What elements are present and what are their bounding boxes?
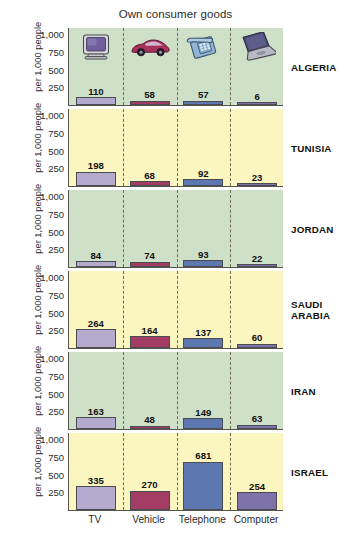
- category-divider: [123, 433, 124, 510]
- y-tick-label: 500: [48, 309, 64, 319]
- y-axis-label: per 1,000 people: [34, 182, 44, 256]
- y-tick-label: 500: [48, 147, 64, 157]
- x-axis-labels: TVVehicleTelephoneComputer: [68, 514, 283, 530]
- bar: 163: [76, 417, 116, 429]
- bar: 93: [183, 260, 223, 267]
- category-divider: [230, 190, 231, 267]
- plot-area: 198689223: [68, 109, 283, 187]
- bar: 48: [130, 426, 170, 429]
- y-tick-label: 750: [48, 48, 64, 58]
- country-label: ALGERIA: [291, 28, 353, 106]
- y-tick-label: 750: [48, 291, 64, 301]
- bar: 264: [76, 329, 116, 348]
- bar: 22: [237, 264, 277, 267]
- bar: 57: [183, 101, 223, 105]
- x-axis-label: TV: [68, 514, 122, 526]
- panel-stack: 1,000750500250per 1,000 people11058576AL…: [0, 28, 353, 514]
- y-axis-label: per 1,000 people: [34, 20, 44, 94]
- bar-value-label: 254: [249, 482, 265, 492]
- y-axis: 1,000750500250per 1,000 people: [26, 190, 66, 268]
- plot-area: 1634814963: [68, 352, 283, 430]
- y-tick-label: 500: [48, 471, 64, 481]
- consumer-goods-chart: Own consumer goods 1,000750500250per 1,0…: [0, 0, 353, 554]
- bar-value-label: 149: [195, 408, 211, 418]
- y-axis: 1,000750500250per 1,000 people: [26, 271, 66, 349]
- bar-value-label: 137: [195, 328, 211, 338]
- bar: 335: [76, 486, 116, 510]
- y-tick-label: 1,000: [40, 273, 64, 283]
- bar: 164: [130, 336, 170, 348]
- x-axis-label: Vehicle: [122, 514, 176, 526]
- x-axis-label: Computer: [229, 514, 283, 526]
- country-panel: 1,000750500250per 1,000 people11058576AL…: [0, 28, 353, 109]
- y-tick-label: 750: [48, 129, 64, 139]
- y-axis: 1,000750500250per 1,000 people: [26, 433, 66, 511]
- bar-value-label: 198: [88, 161, 104, 171]
- category-divider: [177, 190, 178, 267]
- tv-icon: [69, 30, 123, 64]
- y-axis-label: per 1,000 people: [34, 263, 44, 337]
- category-divider: [177, 109, 178, 186]
- plot-area: 84749322: [68, 190, 283, 268]
- bar: 198: [76, 172, 116, 186]
- bar: 84: [76, 261, 116, 267]
- bar-value-label: 6: [254, 92, 259, 102]
- category-divider: [123, 271, 124, 348]
- country-panel: 1,000750500250per 1,000 people2641641376…: [0, 271, 353, 352]
- country-label: SAUDI ARABIA: [291, 271, 353, 349]
- bar: 110: [76, 97, 116, 105]
- chart-title: Own consumer goods: [68, 8, 283, 20]
- category-divider: [230, 109, 231, 186]
- y-tick-label: 250: [48, 164, 64, 174]
- bar-value-label: 163: [88, 407, 104, 417]
- country-panel: 1,000750500250per 1,000 people1634814963…: [0, 352, 353, 433]
- y-axis: 1,000750500250per 1,000 people: [26, 109, 66, 187]
- category-divider: [230, 352, 231, 429]
- category-divider: [177, 28, 178, 105]
- plot-area: 335270681254: [68, 433, 283, 511]
- category-divider: [230, 271, 231, 348]
- plot-area: 11058576: [68, 28, 283, 106]
- y-tick-label: 1,000: [40, 30, 64, 40]
- category-divider: [177, 271, 178, 348]
- bar-value-label: 63: [252, 414, 263, 424]
- bar-value-label: 74: [144, 251, 155, 261]
- y-tick-label: 250: [48, 245, 64, 255]
- bar-value-label: 270: [142, 480, 158, 490]
- bar-value-label: 110: [88, 87, 103, 97]
- category-divider: [230, 433, 231, 510]
- bar-value-label: 23: [252, 173, 263, 183]
- category-divider: [177, 352, 178, 429]
- y-axis-label: per 1,000 people: [34, 425, 44, 499]
- bar-value-label: 68: [144, 171, 155, 181]
- bar-value-label: 60: [252, 333, 263, 343]
- bar: 681: [183, 462, 223, 510]
- country-panel: 1,000750500250per 1,000 people84749322JO…: [0, 190, 353, 271]
- bar: 68: [130, 181, 170, 186]
- category-divider: [123, 109, 124, 186]
- bar: 58: [130, 101, 170, 105]
- country-label: ISRAEL: [291, 433, 353, 511]
- plot-area: 26416413760: [68, 271, 283, 349]
- y-tick-label: 750: [48, 372, 64, 382]
- bar-value-label: 264: [88, 319, 104, 329]
- category-divider: [177, 433, 178, 510]
- bar-value-label: 58: [144, 90, 155, 100]
- y-tick-label: 250: [48, 83, 64, 93]
- category-divider: [123, 352, 124, 429]
- bar: 137: [183, 338, 223, 348]
- bar-value-label: 57: [198, 90, 209, 100]
- y-tick-label: 1,000: [40, 111, 64, 121]
- y-axis: 1,000750500250per 1,000 people: [26, 352, 66, 430]
- bar: 6: [237, 102, 277, 105]
- bar: 60: [237, 344, 277, 348]
- car-icon: [123, 30, 177, 64]
- y-tick-label: 750: [48, 453, 64, 463]
- y-axis-label: per 1,000 people: [34, 344, 44, 418]
- country-label: IRAN: [291, 352, 353, 430]
- bar: 254: [237, 492, 277, 510]
- y-axis: 1,000750500250per 1,000 people: [26, 28, 66, 106]
- y-tick-label: 500: [48, 228, 64, 238]
- category-divider: [123, 190, 124, 267]
- category-divider: [230, 28, 231, 105]
